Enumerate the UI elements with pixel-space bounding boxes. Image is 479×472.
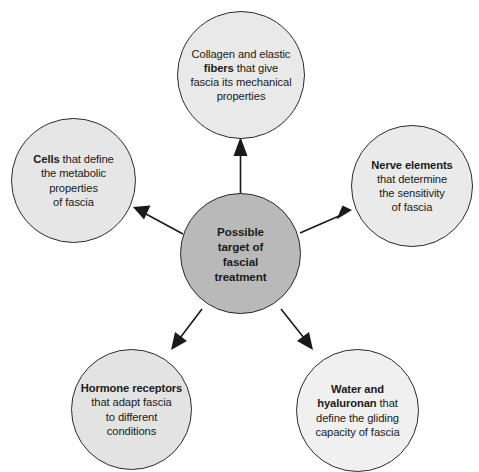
node-cells[interactable]: Cells that define the metabolic properti… bbox=[11, 118, 136, 243]
node-water-hyaluronan-label: Water and hyaluronan that define the gli… bbox=[297, 382, 418, 439]
node-hormone-receptors-label: Hormone receptors that adapt fascia to d… bbox=[72, 381, 191, 438]
node-cells-label: Cells that define the metabolic properti… bbox=[12, 152, 135, 209]
node-water-hyaluronan[interactable]: Water and hyaluronan that define the gli… bbox=[296, 349, 419, 472]
node-hormone-receptors[interactable]: Hormone receptors that adapt fascia to d… bbox=[71, 349, 192, 470]
arrow-to-water bbox=[281, 309, 313, 350]
node-center-possible-target[interactable]: Possible target of fascial treatment bbox=[180, 193, 301, 314]
arrow-to-nerve bbox=[300, 206, 352, 234]
node-center-label: Possible target of fascial treatment bbox=[181, 224, 300, 284]
diagram-canvas: Collagen and elastic fibers that give fa… bbox=[0, 0, 479, 472]
node-nerve-elements-label: Nerve elements that determine the sensit… bbox=[352, 158, 472, 215]
arrow-to-cells bbox=[133, 206, 183, 235]
node-fibers[interactable]: Collagen and elastic fibers that give fa… bbox=[177, 11, 305, 139]
arrow-to-hormone bbox=[171, 309, 202, 350]
node-fibers-label: Collagen and elastic fibers that give fa… bbox=[178, 47, 304, 104]
arrow-to-fibers bbox=[234, 137, 248, 194]
node-nerve-elements[interactable]: Nerve elements that determine the sensit… bbox=[351, 125, 473, 247]
